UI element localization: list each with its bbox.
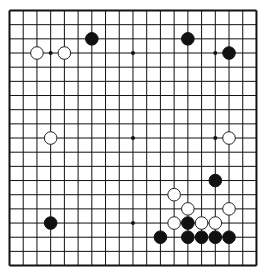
black-stone[interactable] <box>182 217 195 230</box>
white-stone[interactable] <box>31 47 44 60</box>
star-point <box>131 221 135 225</box>
white-stone[interactable] <box>44 132 57 145</box>
black-stone[interactable] <box>86 33 99 46</box>
go-board[interactable] <box>0 0 261 276</box>
star-point <box>131 136 135 140</box>
white-stone[interactable] <box>182 203 195 216</box>
black-stone[interactable] <box>209 174 222 187</box>
black-stone[interactable] <box>44 217 57 230</box>
star-point <box>213 51 217 55</box>
black-stone[interactable] <box>209 231 222 244</box>
white-stone[interactable] <box>223 203 236 216</box>
star-point <box>49 51 53 55</box>
black-stone[interactable] <box>154 231 167 244</box>
black-stone[interactable] <box>223 47 236 60</box>
star-point <box>213 136 217 140</box>
white-stone[interactable] <box>223 132 236 145</box>
black-stone[interactable] <box>182 33 195 46</box>
white-stone[interactable] <box>209 217 222 230</box>
white-stone[interactable] <box>195 217 208 230</box>
black-stone[interactable] <box>182 231 195 244</box>
black-stone[interactable] <box>195 231 208 244</box>
white-stone[interactable] <box>58 47 71 60</box>
black-stone[interactable] <box>223 231 236 244</box>
white-stone[interactable] <box>168 217 181 230</box>
star-point <box>131 51 135 55</box>
white-stone[interactable] <box>168 188 181 201</box>
